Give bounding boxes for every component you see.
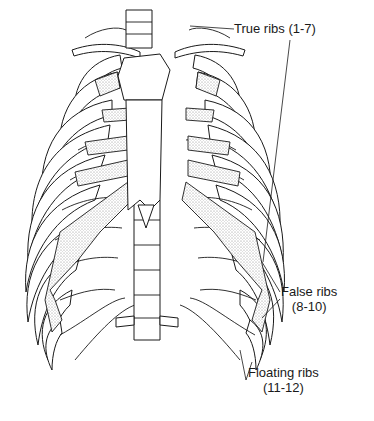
first-ribs [72,28,245,58]
rib-cage-diagram: True ribs (1-7) False ribs (8-10) Floati… [0,0,374,421]
false-ribs-label: False ribs (8-10) [281,284,337,314]
rib-cage-illustration [0,0,374,421]
sternum-body [126,100,162,210]
true-ribs-label: True ribs (1-7) [234,21,316,36]
false-ribs-range: (8-10) [281,299,337,314]
floating-ribs-range: (11-12) [248,380,319,395]
manubrium [118,54,170,100]
true-ribs-label-text: True ribs (1-7) [234,21,316,36]
floating-ribs-label: Floating ribs (11-12) [248,365,319,395]
false-ribs-label-text: False ribs [281,284,337,299]
floating-ribs-label-text: Floating ribs [248,365,319,380]
